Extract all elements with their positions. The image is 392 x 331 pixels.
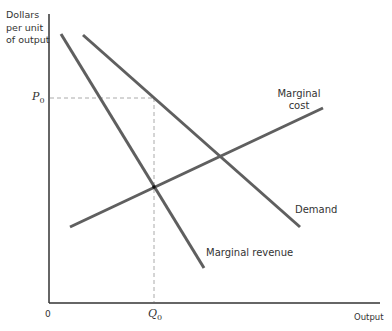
q0-label: Q0 [148, 308, 162, 324]
p0-sub: 0 [39, 96, 44, 105]
mc-label-line: cost [274, 100, 324, 112]
ylabel-line: per unit [6, 22, 50, 35]
origin-label: 0 [45, 308, 51, 320]
q0-sub: 0 [157, 313, 162, 322]
x-axis-label: Output [354, 311, 384, 323]
p0-label: P0 [32, 91, 45, 107]
y-axis-label: Dollars per unit of output [6, 9, 50, 47]
q0-text: Q [148, 307, 157, 320]
marginal-revenue-curve [61, 34, 204, 268]
demand-curve [83, 35, 300, 227]
mc-label-line: Marginal [274, 88, 324, 100]
demand-label: Demand [295, 204, 337, 216]
ylabel-line: of output [6, 34, 50, 47]
marginal-cost-curve [70, 108, 323, 227]
ylabel-line: Dollars [6, 9, 50, 22]
mc-label: Marginal cost [274, 88, 324, 112]
mr-label: Marginal revenue [206, 247, 293, 259]
mr-mc-intersection [152, 185, 156, 189]
chart-canvas [0, 0, 392, 331]
